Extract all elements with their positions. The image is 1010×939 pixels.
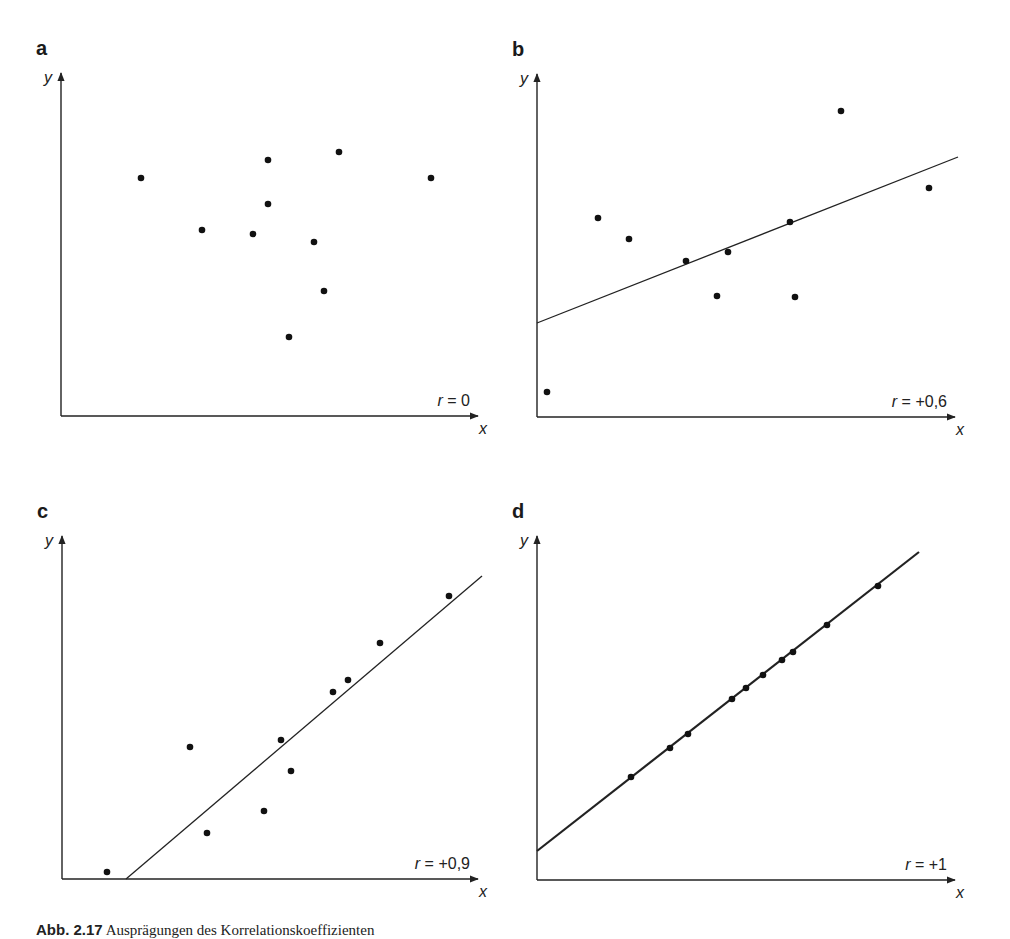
data-point — [288, 768, 295, 775]
data-point — [336, 149, 343, 156]
data-point — [377, 640, 384, 647]
data-point — [792, 294, 799, 301]
data-point — [838, 108, 845, 115]
panel-label: c — [37, 500, 48, 522]
data-point — [790, 649, 797, 656]
data-point — [261, 808, 268, 815]
data-point — [779, 657, 786, 664]
correlation-annotation: r = +0,6 — [892, 393, 947, 410]
data-point — [729, 696, 736, 703]
data-point — [311, 239, 318, 246]
data-point — [626, 236, 633, 243]
data-point — [250, 231, 257, 238]
data-point — [628, 774, 635, 781]
data-point — [685, 731, 692, 738]
y-axis-label: y — [44, 532, 54, 549]
data-point — [787, 219, 794, 226]
x-axis-label: x — [955, 421, 965, 438]
panel-c: cyxr = +0,9 — [37, 500, 488, 900]
data-point — [345, 677, 352, 684]
panel-label: d — [512, 500, 524, 522]
data-point — [725, 249, 732, 256]
data-point — [926, 185, 933, 192]
regression-line — [537, 552, 919, 851]
data-point — [544, 389, 551, 396]
correlation-annotation: r = +0,9 — [415, 855, 470, 872]
x-axis-label: x — [478, 883, 488, 900]
data-point — [330, 689, 337, 696]
data-point — [204, 830, 211, 837]
panel-label: b — [512, 38, 524, 60]
regression-line — [126, 576, 482, 879]
data-point — [104, 869, 111, 876]
data-point — [667, 745, 674, 752]
caption-text: Ausprägungen des Korrelationskoeffizient… — [106, 922, 375, 938]
data-point — [743, 685, 750, 692]
panel-d: dyxr = +1 — [512, 500, 965, 901]
data-point — [199, 227, 206, 234]
data-point — [321, 288, 328, 295]
data-point — [760, 672, 767, 679]
panel-a: ayxr = 0 — [36, 37, 488, 437]
data-point — [595, 215, 602, 222]
data-point — [683, 258, 690, 265]
data-point — [875, 583, 882, 590]
data-point — [824, 622, 831, 629]
data-point — [278, 737, 285, 744]
caption-prefix: Abb. 2.17 — [36, 921, 103, 938]
y-axis-label: y — [519, 70, 529, 87]
x-axis-label: x — [955, 884, 965, 901]
x-axis-label: x — [478, 420, 488, 437]
y-axis-label: y — [43, 69, 53, 86]
data-point — [714, 293, 721, 300]
data-point — [428, 175, 435, 182]
data-point — [286, 334, 293, 341]
correlation-annotation: r = +1 — [905, 856, 947, 873]
data-point — [446, 593, 453, 600]
data-point — [138, 175, 145, 182]
data-point — [187, 744, 194, 751]
data-point — [265, 157, 272, 164]
correlation-annotation: r = 0 — [438, 392, 471, 409]
panel-b: byxr = +0,6 — [512, 38, 965, 438]
y-axis-label: y — [519, 532, 529, 549]
panel-label: a — [36, 37, 48, 59]
figure-caption: Abb. 2.17 Ausprägungen des Korrelationsk… — [36, 921, 374, 939]
regression-line — [537, 157, 958, 323]
data-point — [265, 201, 272, 208]
